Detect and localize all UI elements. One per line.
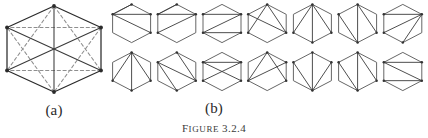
triangulation-8-diagonal-3	[113, 52, 132, 80]
triangulation-4-diagonal-3	[248, 4, 267, 32]
triangulation-5-vertex-0	[311, 3, 314, 6]
triangulation-12-vertex-0	[311, 51, 314, 54]
triangulation-5-vertex-3	[311, 41, 314, 44]
triangulation-2-vertex-1	[195, 13, 198, 16]
triangulation-2-diagonal-3	[158, 14, 196, 32]
triangulation-11-vertex-0	[266, 51, 269, 54]
triangulation-6-vertex-0	[356, 3, 359, 6]
caption-initial: F	[182, 122, 189, 134]
graph-vertex-3	[52, 90, 56, 94]
triangulation-13-diagonal-3	[358, 52, 377, 80]
triangulation-14-vertex-1	[421, 61, 424, 64]
triangulation-8-vertex-3	[130, 89, 133, 92]
triangulation-1-diagonal-3	[113, 14, 151, 32]
triangulation-7-vertex-5	[383, 13, 386, 16]
figure-3-2-4: (a) (b) FIGURE3.2.4	[0, 0, 428, 138]
triangulation-1-vertex-1	[149, 13, 152, 16]
triangulation-13-vertex-2	[375, 79, 378, 82]
panel-b-triangulations	[108, 0, 428, 100]
panel-a-complete-graph	[0, 0, 108, 100]
triangulation-8-vertex-4	[111, 79, 114, 82]
triangulation-8-vertex-2	[149, 79, 152, 82]
triangulation-3	[202, 4, 243, 42]
triangulation-1-vertex-5	[111, 13, 114, 16]
triangulation-2-diagonal-1	[158, 4, 177, 14]
triangulation-13	[337, 51, 378, 92]
triangulation-10	[202, 52, 243, 90]
triangulation-13-vertex-5	[337, 61, 340, 64]
triangulation-2-vertex-0	[176, 3, 179, 6]
triangulation-13-diagonal-1	[339, 62, 358, 90]
triangulation-2-vertex-5	[157, 13, 160, 16]
triangulation-12-diagonal-1	[293, 62, 312, 90]
triangulation-13-vertex-3	[356, 89, 359, 92]
triangulation-4-vertex-2	[285, 31, 288, 34]
triangulation-6-diagonal-3	[339, 14, 358, 42]
triangulation-10-vertex-2	[240, 79, 243, 82]
triangulation-6-diagonal-1	[358, 4, 377, 32]
triangulation-7-vertex-1	[421, 13, 424, 16]
triangulation-3-diagonal-2	[203, 14, 241, 32]
triangulation-10-vertex-1	[240, 61, 243, 64]
triangulation-4-vertex-5	[247, 13, 250, 16]
triangulation-6	[337, 3, 378, 44]
triangulation-12	[292, 51, 333, 92]
triangulation-10-vertex-4	[202, 79, 205, 82]
triangulation-8	[111, 51, 152, 92]
triangulation-4-vertex-0	[266, 3, 269, 6]
triangulation-6-vertex-5	[337, 13, 340, 16]
triangulation-9	[157, 51, 198, 92]
triangulation-1-vertex-2	[149, 31, 152, 34]
triangulation-1-diagonal-1	[113, 4, 132, 14]
panel-b-label: (b)	[176, 100, 252, 117]
triangulation-13-vertex-0	[356, 51, 359, 54]
triangulation-3-vertex-5	[202, 13, 205, 16]
triangulation-9-vertex-3	[176, 89, 179, 92]
triangulation-11-vertex-2	[285, 79, 288, 82]
triangulation-1-vertex-0	[130, 3, 133, 6]
triangulation-7-vertex-3	[402, 41, 405, 44]
triangulation-6-vertex-3	[356, 41, 359, 44]
triangulation-8-vertex-0	[130, 51, 133, 54]
triangulation-9-vertex-5	[157, 61, 160, 64]
triangulation-6-vertex-2	[375, 31, 378, 34]
figure-caption: FIGURE3.2.4	[0, 122, 428, 134]
triangulation-3-vertex-2	[240, 31, 243, 34]
graph-vertex-2	[99, 69, 103, 73]
triangulation-1	[111, 3, 152, 42]
triangulation-11-vertex-1	[285, 61, 288, 64]
figure-caption-word: FIGURE	[182, 124, 219, 134]
triangulation-11-vertex-4	[247, 79, 250, 82]
triangulation-11-diagonal-3	[267, 52, 286, 80]
caption-smallcaps: IGURE	[189, 124, 220, 134]
triangulation-7	[383, 4, 424, 43]
triangulation-12-vertex-5	[292, 61, 295, 64]
triangulation-7-vertex-4	[383, 31, 386, 34]
panel-a-label: (a)	[16, 102, 92, 119]
triangulation-14-diagonal-1	[384, 62, 422, 80]
triangulation-14-vertex-5	[383, 61, 386, 64]
triangulation-5-vertex-2	[330, 31, 333, 34]
triangulation-5-diagonal-3	[293, 4, 312, 32]
triangulation-9-vertex-0	[176, 51, 179, 54]
triangulation-3-vertex-4	[202, 31, 205, 34]
graph-vertex-1	[99, 26, 103, 30]
triangulation-14	[383, 52, 424, 90]
triangulation-4-vertex-4	[247, 31, 250, 34]
triangulation-5-diagonal-1	[312, 4, 331, 32]
triangulation-14-vertex-2	[421, 79, 424, 82]
figure-caption-number: 3.2.4	[222, 122, 246, 134]
graph-vertex-4	[5, 69, 9, 73]
triangulations-grid	[108, 0, 428, 100]
triangulation-2-vertex-4	[157, 31, 160, 34]
triangulation-3-vertex-1	[240, 13, 243, 16]
triangulation-2	[157, 3, 198, 42]
triangulation-8-diagonal-1	[132, 52, 151, 80]
triangulation-5	[292, 3, 333, 44]
triangulation-14-vertex-4	[383, 79, 386, 82]
triangulation-11	[247, 51, 288, 90]
graph-vertex-0	[52, 4, 56, 8]
triangulation-12-vertex-1	[330, 61, 333, 64]
triangulation-12-diagonal-3	[312, 62, 331, 90]
triangulation-5-vertex-4	[292, 31, 295, 34]
